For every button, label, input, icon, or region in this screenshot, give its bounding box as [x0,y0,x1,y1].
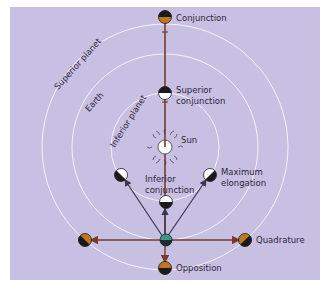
label-max-elongation-1: Maximum [221,167,263,177]
label-inferior-conjunction-1: Inferior [145,174,176,184]
planet-quadrature-east [239,234,252,247]
label-conjunction: Conjunction [176,13,227,23]
earth-icon [160,234,172,246]
label-opposition: Opposition [176,263,222,273]
planet-max-elongation-west [114,169,127,182]
label-max-elongation-2: elongation [221,178,266,188]
label-sun: Sun [181,135,197,145]
label-superior-conjunction-1: Superior [176,85,212,95]
label-superior-conjunction-2: conjunction [176,96,225,106]
planet-inferior-conjunction [160,196,173,209]
label-inferior-conjunction-2: conjunction [145,185,194,195]
planet-superior-conjunction [159,87,172,100]
planet-quadrature-west [78,234,91,247]
diagram-panel: Superior planet Earth Inferior planet Co… [10,7,320,280]
planet-conjunction [159,11,172,24]
planet-max-elongation-east [204,169,217,182]
label-quadrature: Quadrature [256,235,305,245]
planet-opposition [159,262,172,275]
